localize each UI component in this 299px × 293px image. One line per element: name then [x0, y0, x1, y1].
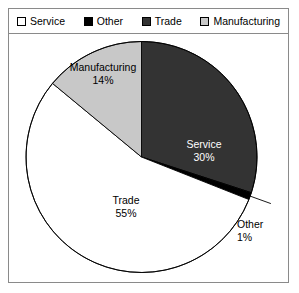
- legend-swatch-trade: [142, 17, 151, 26]
- other-leader-line: [248, 195, 271, 203]
- legend-swatch-manufacturing: [200, 17, 209, 26]
- legend-label-trade: Trade: [155, 16, 182, 27]
- legend-item-trade: Trade: [142, 16, 182, 27]
- pie-chart-figure: Service Other Trade Manufacturing Servic…: [0, 0, 299, 293]
- legend-item-service: Service: [17, 16, 65, 27]
- pie-plot-area: Service 30% Other 1% Trade 55% Manufactu…: [9, 34, 288, 283]
- legend-item-other: Other: [84, 16, 123, 27]
- legend-item-manufacturing: Manufacturing: [200, 16, 280, 27]
- legend-swatch-service: [17, 17, 26, 26]
- legend-swatch-other: [84, 17, 93, 26]
- pie-slice-group: [26, 42, 257, 273]
- pie-svg: [9, 34, 288, 283]
- chart-legend: Service Other Trade Manufacturing: [9, 9, 288, 34]
- legend-label-service: Service: [30, 16, 65, 27]
- legend-label-other: Other: [97, 16, 123, 27]
- legend-label-manufacturing: Manufacturing: [213, 16, 280, 27]
